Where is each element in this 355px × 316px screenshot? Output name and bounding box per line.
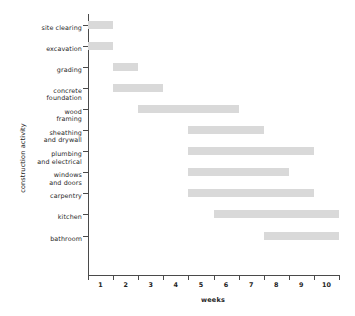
y-axis-tick bbox=[83, 130, 88, 131]
y-axis-tick bbox=[83, 193, 88, 194]
gantt-bar bbox=[188, 126, 263, 134]
x-axis-tick-label: 4 bbox=[166, 281, 186, 289]
category-label-text: carpentry bbox=[14, 193, 82, 200]
x-axis-tick bbox=[163, 275, 164, 280]
y-axis-line bbox=[88, 14, 89, 276]
category-label-text: sheathing and drywall bbox=[14, 130, 82, 145]
category-label-text: grading bbox=[14, 67, 82, 74]
y-axis-tick bbox=[83, 236, 88, 237]
x-axis-tick-label: 10 bbox=[316, 281, 336, 289]
y-axis-tick bbox=[83, 172, 88, 173]
gantt-bar bbox=[188, 168, 288, 176]
x-axis-tick-label: 3 bbox=[141, 281, 161, 289]
gantt-chart: construction activity site clearingexcav… bbox=[0, 0, 355, 316]
x-axis-tick-label: 1 bbox=[91, 281, 111, 289]
gantt-bar bbox=[138, 105, 238, 113]
x-axis-tick-label: 7 bbox=[241, 281, 261, 289]
y-axis-tick bbox=[83, 214, 88, 215]
x-axis-tick-label: 9 bbox=[291, 281, 311, 289]
category-label-text: concrete foundation bbox=[14, 88, 82, 103]
x-axis-tick-label: 2 bbox=[116, 281, 136, 289]
x-axis-tick-label: 8 bbox=[266, 281, 286, 289]
gantt-bar bbox=[88, 21, 113, 29]
x-axis-tick bbox=[188, 275, 189, 280]
y-axis-tick bbox=[83, 88, 88, 89]
x-axis-tick bbox=[264, 275, 265, 280]
x-axis-tick bbox=[214, 275, 215, 280]
x-axis-tick-label: 6 bbox=[216, 281, 236, 289]
category-label-text: wood framing bbox=[14, 109, 82, 124]
x-axis-title: weeks bbox=[88, 296, 338, 304]
x-axis-tick bbox=[339, 275, 340, 280]
gantt-bar bbox=[88, 42, 113, 50]
y-axis-tick bbox=[83, 67, 88, 68]
gantt-bar bbox=[188, 189, 314, 197]
y-axis-tick bbox=[83, 151, 88, 152]
x-axis-tick bbox=[239, 275, 240, 280]
gantt-bar bbox=[113, 84, 163, 92]
category-label-text: site clearing bbox=[14, 25, 82, 32]
x-axis-tick-label: 5 bbox=[191, 281, 211, 289]
category-label-text: bathroom bbox=[14, 236, 82, 243]
x-axis-tick bbox=[138, 275, 139, 280]
x-axis-tick bbox=[314, 275, 315, 280]
category-label-text: excavation bbox=[14, 46, 82, 53]
gantt-bar bbox=[113, 63, 138, 71]
gantt-bar bbox=[264, 232, 339, 240]
y-axis-tick bbox=[83, 109, 88, 110]
gantt-bar bbox=[188, 147, 314, 155]
gantt-bar bbox=[214, 210, 340, 218]
category-label-text: windows and doors bbox=[14, 172, 82, 187]
category-label-text: plumbing and electrical bbox=[14, 151, 82, 166]
category-label-text: kitchen bbox=[14, 214, 82, 221]
x-axis-tick bbox=[113, 275, 114, 280]
x-axis-tick bbox=[289, 275, 290, 280]
x-axis-tick bbox=[88, 275, 89, 280]
